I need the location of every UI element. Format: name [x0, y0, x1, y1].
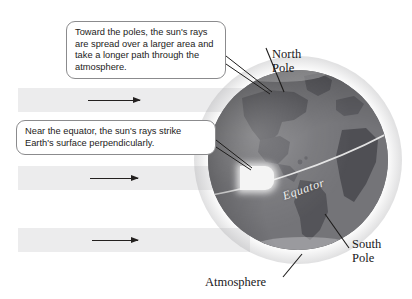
callout-poles: Toward the poles, the sun's rays are spr… [66, 21, 226, 79]
earth-globe: Equator [208, 70, 388, 250]
equator-ray-contact-glow [240, 166, 274, 190]
globe-sphere: Equator [208, 70, 388, 250]
globe-map-svg [208, 70, 388, 250]
callout-poles-text: Toward the poles, the sun's rays are spr… [75, 27, 218, 73]
diagram-canvas: Equator Toward the poles, the sun's rays… [0, 0, 412, 299]
label-south-pole-line1: South [352, 238, 381, 252]
label-south-pole-line2: Pole [352, 252, 381, 266]
label-north-pole-line1: North [272, 48, 301, 62]
callout-equator: Near the equator, the sun's rays strike … [16, 120, 216, 155]
label-atmosphere: Atmosphere [205, 276, 266, 290]
label-north-pole-line2: Pole [272, 62, 301, 76]
label-south-pole: South Pole [352, 238, 381, 265]
sun-ray-arrow-top [88, 100, 140, 101]
sun-ray-arrow-bottom [92, 240, 138, 241]
label-north-pole: North Pole [272, 48, 301, 75]
callout-equator-text: Near the equator, the sun's rays strike … [25, 126, 208, 149]
sun-ray-arrow-middle [90, 178, 138, 179]
